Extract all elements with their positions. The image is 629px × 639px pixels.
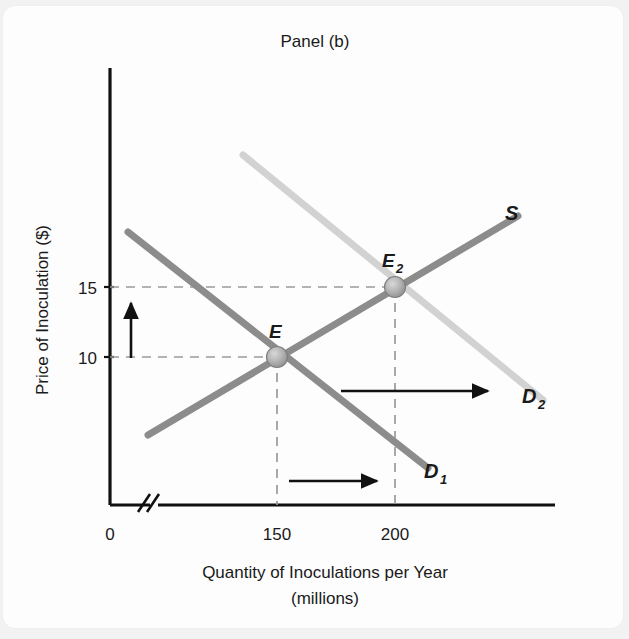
y-axis-title: Price of Inoculation ($) <box>33 225 52 395</box>
figure-root: Panel (b) <box>0 0 629 639</box>
x-tick-label-0: 0 <box>105 525 114 544</box>
x-axis-title-line1: Quantity of Inoculations per Year <box>202 563 448 582</box>
supply-curve-s <box>148 216 518 435</box>
y-tick-label-15: 15 <box>78 279 97 298</box>
point-label-e2-subscript: 2 <box>395 261 404 276</box>
curve-label-d1: D <box>424 460 438 482</box>
axes <box>104 68 555 512</box>
curves <box>128 155 543 468</box>
curve-label-d2-subscript: 2 <box>537 397 546 412</box>
guide-lines <box>110 287 395 505</box>
chart-title: Panel (b) <box>281 32 350 51</box>
point-label-e: E <box>269 321 283 342</box>
equilibrium-marker-e <box>267 347 288 368</box>
y-tick-label-10: 10 <box>78 349 97 368</box>
point-label-e2: E <box>382 250 396 271</box>
annotation-arrows <box>131 303 488 481</box>
curve-label-d2: D <box>522 385 536 407</box>
axis-break-icon <box>138 494 159 512</box>
supply-demand-chart: Panel (b) <box>0 0 629 639</box>
curve-labels: S D 2 D 1 <box>424 202 546 487</box>
curve-label-d1-subscript: 1 <box>440 472 447 487</box>
curve-label-s: S <box>505 202 519 224</box>
x-tick-label-200: 200 <box>381 525 409 544</box>
x-axis-title-line2: (millions) <box>291 589 359 608</box>
equilibrium-marker-e2 <box>385 277 406 298</box>
x-tick-label-150: 150 <box>263 525 291 544</box>
